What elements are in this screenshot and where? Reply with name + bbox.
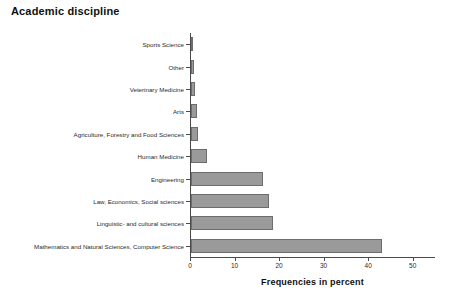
category-tick	[186, 223, 191, 224]
category-tick	[186, 89, 191, 90]
category-tick	[186, 156, 191, 157]
bar	[191, 194, 269, 208]
value-tick-label: 20	[275, 262, 282, 269]
category-label: Linguistic- and cultural sciences	[97, 220, 184, 227]
category-tick	[186, 111, 191, 112]
bar	[191, 127, 198, 141]
category-label: Human Medicine	[138, 153, 184, 160]
bar	[191, 149, 207, 163]
plot-area: Sports ScienceOtherVeterinary MedicineAr…	[190, 33, 435, 257]
value-tick-label: 40	[365, 262, 372, 269]
value-tick-label: 0	[188, 262, 192, 269]
category-tick	[186, 67, 191, 68]
category-label: Mathematics and Natural Sciences, Comput…	[34, 243, 184, 250]
value-tick	[190, 257, 191, 261]
value-tick	[413, 257, 414, 261]
value-tick-label: 30	[320, 262, 327, 269]
bar	[191, 239, 382, 253]
category-label: Sports Science	[142, 41, 184, 48]
bar	[191, 216, 273, 230]
category-tick	[186, 201, 191, 202]
value-tick-label: 50	[409, 262, 416, 269]
value-tick	[324, 257, 325, 261]
chart-title: Academic discipline	[11, 5, 120, 17]
value-tick	[235, 257, 236, 261]
value-tick	[368, 257, 369, 261]
category-label: Engineering	[151, 176, 184, 183]
category-tick	[186, 246, 191, 247]
bar	[191, 172, 263, 186]
value-tick	[279, 257, 280, 261]
x-axis-title: Frequencies in percent	[190, 277, 435, 287]
category-label: Veterinary Medicine	[130, 86, 184, 93]
bar	[191, 60, 194, 74]
category-tick	[186, 134, 191, 135]
value-axis-line	[190, 257, 435, 258]
value-tick-label: 10	[231, 262, 238, 269]
category-label: Agriculture, Forestry and Food Sciences	[74, 131, 184, 138]
bar	[191, 82, 195, 96]
category-label: Arts	[173, 108, 184, 115]
bar	[191, 37, 193, 51]
bar-chart: Academic discipline Sports ScienceOtherV…	[0, 0, 469, 293]
category-tick	[186, 44, 191, 45]
category-tick	[186, 179, 191, 180]
bar	[191, 104, 197, 118]
category-label: Law, Economics, Social sciences	[93, 198, 184, 205]
category-label: Other	[169, 64, 184, 71]
